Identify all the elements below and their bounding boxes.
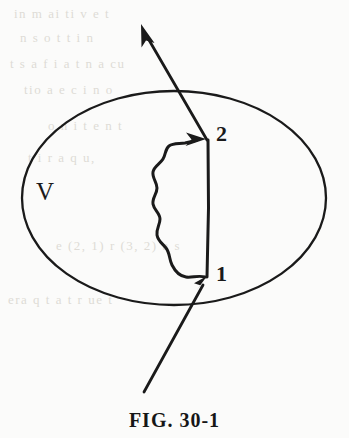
- volume-boundary-ellipse: [22, 91, 326, 305]
- outgoing-particle-ray: [141, 24, 207, 140]
- straight-world-line-segment: [207, 140, 209, 277]
- point-label-2: 2: [216, 121, 227, 147]
- figure-page: in m ai ti v e tn s o t t i nt s a f i a…: [0, 0, 349, 438]
- point-label-1: 1: [216, 261, 227, 287]
- incoming-particle-ray: [144, 276, 207, 392]
- figure-drawing: [0, 0, 349, 438]
- region-label-v: V: [36, 178, 54, 206]
- wavy-photon-line: [153, 133, 206, 278]
- figure-caption: FIG. 30-1: [0, 409, 349, 432]
